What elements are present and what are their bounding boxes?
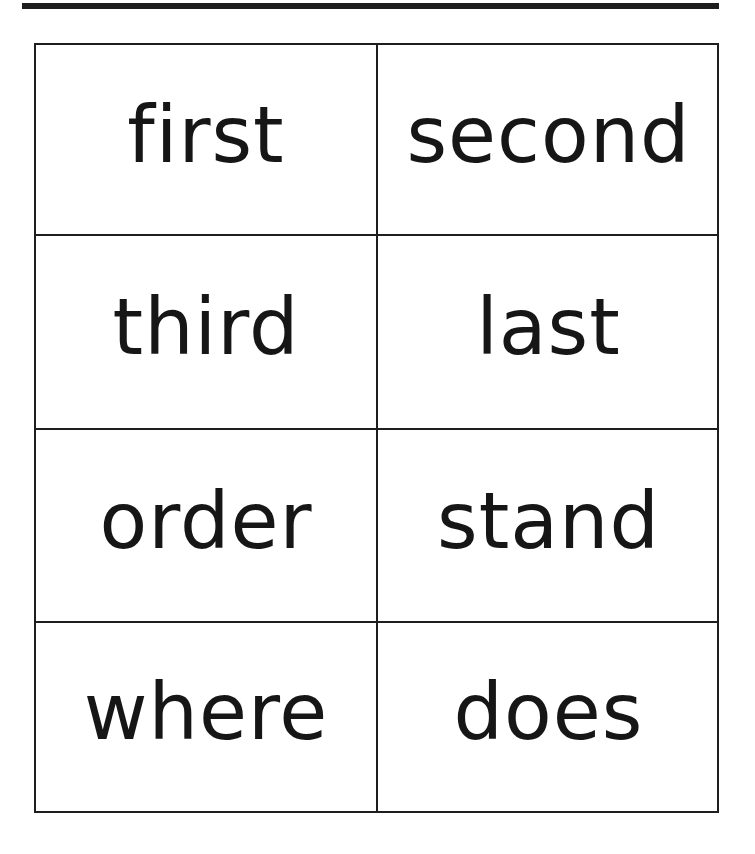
card-word: second — [406, 96, 690, 174]
word-card-does: does — [378, 623, 719, 811]
card-word: stand — [437, 482, 660, 560]
word-card-last: last — [378, 236, 719, 430]
card-word: third — [113, 288, 300, 366]
top-rule-divider — [22, 3, 719, 9]
word-card-second: second — [378, 45, 719, 236]
word-card-first: first — [36, 45, 378, 236]
word-card-stand: stand — [378, 430, 719, 623]
word-card-order: order — [36, 430, 378, 623]
card-word: first — [127, 96, 284, 174]
word-card-grid: first second third last order stand wher… — [34, 43, 719, 813]
card-word: last — [476, 288, 621, 366]
card-word: where — [84, 673, 329, 751]
word-card-third: third — [36, 236, 378, 430]
card-word: order — [100, 482, 313, 560]
card-word: does — [454, 673, 644, 751]
word-card-where: where — [36, 623, 378, 811]
